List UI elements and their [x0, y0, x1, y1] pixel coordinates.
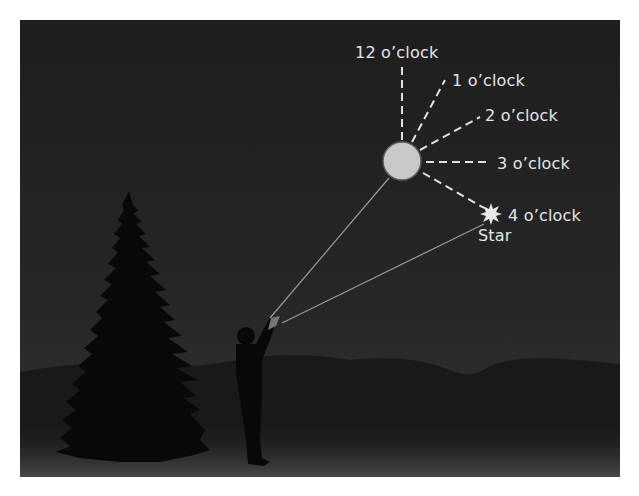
- label-12-oclock: 12 o’clock: [355, 45, 438, 61]
- tree-silhouette: [56, 191, 210, 462]
- sight-line-to-star: [282, 224, 484, 323]
- label-4-oclock: 4 o’clock: [508, 208, 581, 224]
- dash-2: [420, 117, 480, 150]
- moon-icon: [383, 142, 421, 180]
- label-1-oclock: 1 o’clock: [452, 73, 525, 89]
- scene-graphic: [20, 20, 620, 477]
- sight-line-to-moon: [270, 178, 389, 318]
- night-sky-diagram: 12 o’clock 1 o’clock 2 o’clock 3 o’clock…: [20, 20, 620, 477]
- label-3-oclock: 3 o’clock: [497, 156, 570, 172]
- dash-4: [423, 173, 484, 208]
- dash-1: [412, 80, 445, 142]
- label-2-oclock: 2 o’clock: [485, 108, 558, 124]
- star-icon: [480, 203, 502, 225]
- label-star: Star: [478, 228, 512, 244]
